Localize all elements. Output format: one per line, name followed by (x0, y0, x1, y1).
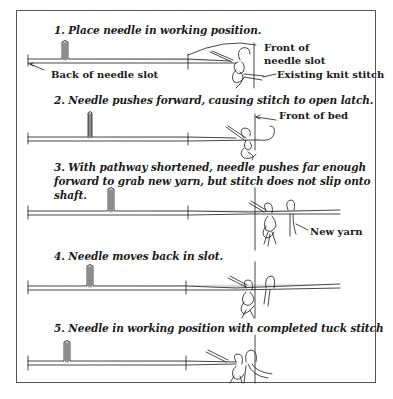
needle-illustrations (0, 0, 393, 399)
step-1-needle (28, 41, 276, 89)
step-2-needle (28, 112, 276, 161)
step-5-needle (28, 335, 272, 383)
step-4-needle (28, 262, 340, 318)
step-3-needle (28, 188, 340, 251)
